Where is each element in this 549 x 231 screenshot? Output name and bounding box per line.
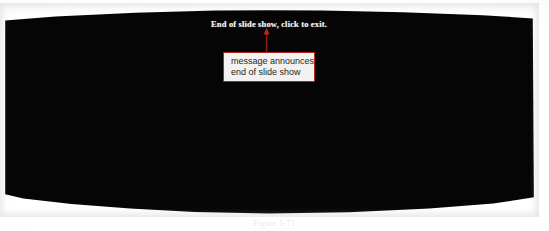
scanned-page: End of slide show, click to exit. messag… <box>0 0 549 231</box>
end-of-slideshow-message[interactable]: End of slide show, click to exit. <box>2 19 536 29</box>
annotation-line-1: message announces <box>231 56 314 68</box>
slide-show-screenshot: End of slide show, click to exit. <box>2 6 540 218</box>
annotation-callout-box: message announces end of slide show <box>223 52 315 82</box>
annotation-line-2: end of slide show <box>231 67 314 79</box>
figure-caption: Figure 1-71 <box>0 219 549 228</box>
slide-black-background <box>2 6 536 214</box>
